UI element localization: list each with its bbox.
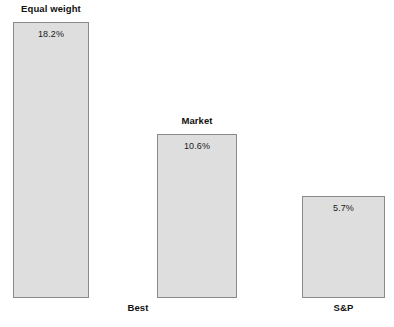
bar-value-sp: 5.7%	[302, 203, 385, 213]
bar-value-market: 10.6%	[157, 141, 237, 151]
caption-best: Best	[108, 302, 168, 313]
bar-chart: Equal weight 18.2% Market 10.6% 5.7% S&P…	[0, 0, 394, 327]
bar-label-market: Market	[157, 115, 237, 126]
bar-label-equal-weight: Equal weight	[5, 3, 97, 14]
bar-equal-weight	[13, 22, 89, 298]
bar-value-equal-weight: 18.2%	[13, 29, 89, 39]
bar-market	[157, 134, 237, 298]
bar-label-sp: S&P	[302, 302, 385, 313]
